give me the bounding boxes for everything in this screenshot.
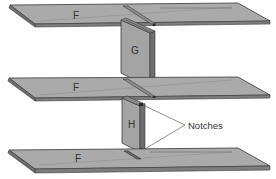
panel-g-label: G	[131, 45, 139, 56]
shelf-middle-notch-hole	[153, 96, 156, 99]
callout-leader-top	[143, 105, 185, 125]
shelf-top-notch-hole	[153, 24, 156, 27]
shelf-top-label: F	[73, 10, 79, 21]
shelf-top: F	[9, 3, 270, 27]
callout-label: Notches	[188, 120, 223, 131]
panel-h-side	[140, 104, 145, 152]
shelf-middle: F	[8, 77, 270, 101]
notches-callout: Notches	[143, 105, 223, 150]
shelf-assembly-diagram: F G F H Notches	[0, 0, 276, 179]
panel-h: H	[122, 96, 145, 152]
panel-h-notch-top	[139, 103, 143, 106]
shelf-bottom-label: F	[75, 153, 81, 164]
shelf-bottom: F	[8, 148, 270, 173]
panel-h-label: H	[128, 119, 135, 130]
callout-leader-bottom	[143, 125, 185, 150]
shelf-middle-label: F	[73, 82, 79, 93]
